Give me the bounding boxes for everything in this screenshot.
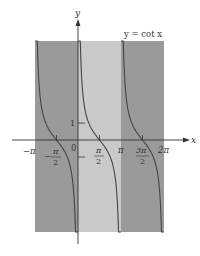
cot-graph: y x y = cot x −π − π 2 0 π 2 π 3π 2 2π 1: [0, 0, 200, 256]
label-zero: 0: [71, 143, 76, 153]
x-axis-label: x: [191, 135, 196, 145]
label-neg-half-pi-den: 2: [53, 158, 58, 167]
label-neg-half-pi-num: π: [52, 147, 59, 156]
label-pi: π: [117, 145, 124, 155]
x-axis-arrow-icon: [183, 138, 190, 143]
label-neg-sign: −: [44, 151, 51, 161]
y-axis-label: y: [74, 8, 81, 18]
label-one: 1: [70, 119, 75, 128]
label-half-pi-den: 2: [96, 157, 101, 166]
label-half-pi-num: π: [95, 146, 102, 155]
y-axis-arrow-icon: [76, 19, 81, 26]
chart-title: y = cot x: [123, 29, 162, 39]
label-three-half-pi-num: 3π: [136, 146, 147, 155]
label-two-pi: 2π: [157, 145, 169, 155]
label-neg-pi: −π: [23, 146, 36, 156]
label-three-half-pi-den: 2: [140, 157, 145, 166]
